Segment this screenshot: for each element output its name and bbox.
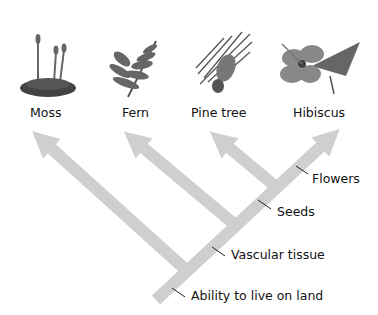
trait-label-vascular: Vascular tissue (231, 247, 325, 262)
cladogram-branches (0, 0, 378, 315)
trait-tick-land (172, 288, 185, 297)
trait-label-seeds: Seeds (277, 204, 315, 219)
fern-branch (134, 140, 234, 224)
trait-label-land: Ability to live on land (191, 288, 323, 303)
cladogram: Moss Fern Pine tree Hibiscus Ability (0, 0, 378, 315)
pine-branch (220, 140, 275, 186)
trait-label-flowers: Flowers (312, 171, 360, 186)
